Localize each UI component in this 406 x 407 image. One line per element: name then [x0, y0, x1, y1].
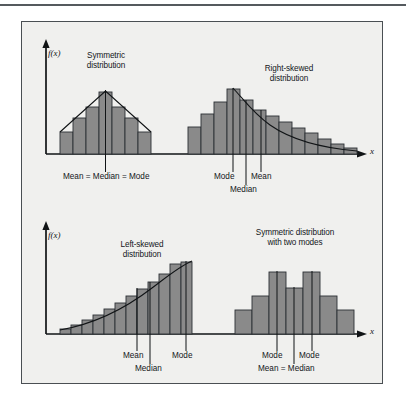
stat-bimodal-mode-left: Mode: [262, 351, 282, 360]
stat-right-skewed-mean: Mean: [251, 172, 271, 181]
stat-right-skewed-mode: Mode: [214, 172, 234, 181]
stat-left-skewed-mean: Mean: [123, 351, 143, 360]
caption-left-skewed: Left-skewed distribution: [108, 240, 176, 259]
caption-bimodal: Symmetric distribution with two modes: [236, 228, 354, 247]
stat-bimodal-mean-median: Mean = Median: [258, 364, 315, 373]
top-y-axis-label: f(x): [48, 48, 61, 58]
figure-frame: f(x) x Symmetric distribution Right-skew…: [21, 21, 383, 384]
stat-left-skewed-median: Median: [135, 364, 162, 373]
figure-root: f(x) x Symmetric distribution Right-skew…: [0, 0, 406, 407]
caption-symmetric: Symmetric distribution: [70, 51, 142, 70]
stat-right-skewed-median: Median: [230, 185, 257, 194]
top-rule: [0, 4, 406, 6]
caption-right-skewed: Right-skewed distribution: [246, 64, 332, 83]
panel-bottom: f(x) x Left-skewed distribution Symmetri…: [22, 204, 382, 382]
bottom-y-axis-label: f(x): [48, 230, 61, 240]
bottom-x-axis-label: x: [370, 326, 374, 336]
stat-bimodal-mode-right: Mode: [299, 351, 319, 360]
chart-right-skewed-bars: [188, 89, 357, 154]
stat-left-skewed-mode: Mode: [172, 351, 192, 360]
stat-symmetric-all: Mean = Median = Mode: [63, 172, 149, 181]
top-x-axis-label: x: [370, 146, 374, 156]
